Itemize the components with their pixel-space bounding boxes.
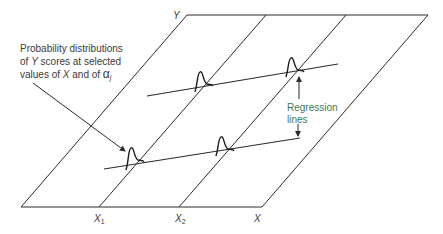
annotation-line-3: values of X and of αj [20, 67, 112, 82]
annotation-line-2: of Y scores at selected [20, 56, 121, 67]
annotation-line-3-mid: and of [69, 69, 102, 80]
regression-distribution-diagram: Y X X1 X2 Probability distributions of Y… [0, 0, 443, 234]
x2-label-sub: 2 [182, 218, 186, 225]
distribution-curve-upper-x1 [195, 72, 213, 92]
annotation-line-2-pre: of [20, 56, 31, 67]
annotation-alpha-sub: j [109, 74, 112, 82]
regression-label-line-2: lines [287, 114, 308, 125]
x1-gridline [99, 15, 266, 207]
annotation-alpha: α [103, 67, 110, 81]
annotation-line-2-post: scores at selected [38, 56, 121, 67]
regression-line-upper [147, 64, 338, 96]
annotation-line-3-pre: values of [20, 69, 63, 80]
regression-label-line-1: Regression [287, 102, 338, 113]
regression-line-lower [104, 138, 300, 169]
annotation-pointer [33, 83, 125, 151]
x1-label: X1 [93, 213, 105, 225]
y-axis-label: Y [173, 10, 181, 21]
x-axis-label: X [253, 213, 261, 224]
x2-label: X2 [174, 213, 186, 225]
annotation-line-1: Probability distributions [20, 43, 123, 54]
x1-label-sub: 1 [101, 218, 105, 225]
